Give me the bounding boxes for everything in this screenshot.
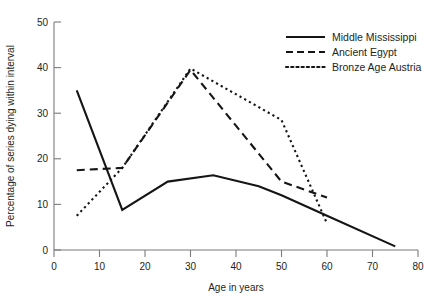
x-tick-label-40: 40: [230, 261, 242, 272]
legend-label-1: Ancient Egypt: [332, 46, 397, 58]
y-tick-label-0: 0: [42, 245, 48, 256]
y-axis-title: Percentage of series dying within interv…: [5, 45, 16, 227]
y-tick-label-50: 50: [37, 17, 49, 28]
x-tick-label-60: 60: [321, 261, 333, 272]
line-chart-figure: 0 10 20 30 40 50 0 10 20 30 40 50 60 70 …: [0, 0, 444, 307]
x-tick-label-10: 10: [94, 261, 106, 272]
x-tick-label-30: 30: [185, 261, 197, 272]
y-tick-label-10: 10: [37, 199, 49, 210]
y-tick-label-30: 30: [37, 108, 49, 119]
legend-label-0: Middle Mississippi: [332, 31, 417, 43]
chart-canvas: 0 10 20 30 40 50 0 10 20 30 40 50 60 70 …: [0, 0, 444, 307]
x-tick-label-0: 0: [51, 261, 57, 272]
y-tick-label-20: 20: [37, 153, 49, 164]
legend-label-2: Bronze Age Austria: [332, 61, 421, 73]
y-tick-label-40: 40: [37, 62, 49, 73]
x-tick-label-20: 20: [139, 261, 151, 272]
x-tick-label-50: 50: [276, 261, 288, 272]
x-tick-label-80: 80: [412, 261, 424, 272]
x-tick-label-70: 70: [367, 261, 379, 272]
x-axis-title: Age in years: [208, 282, 264, 293]
